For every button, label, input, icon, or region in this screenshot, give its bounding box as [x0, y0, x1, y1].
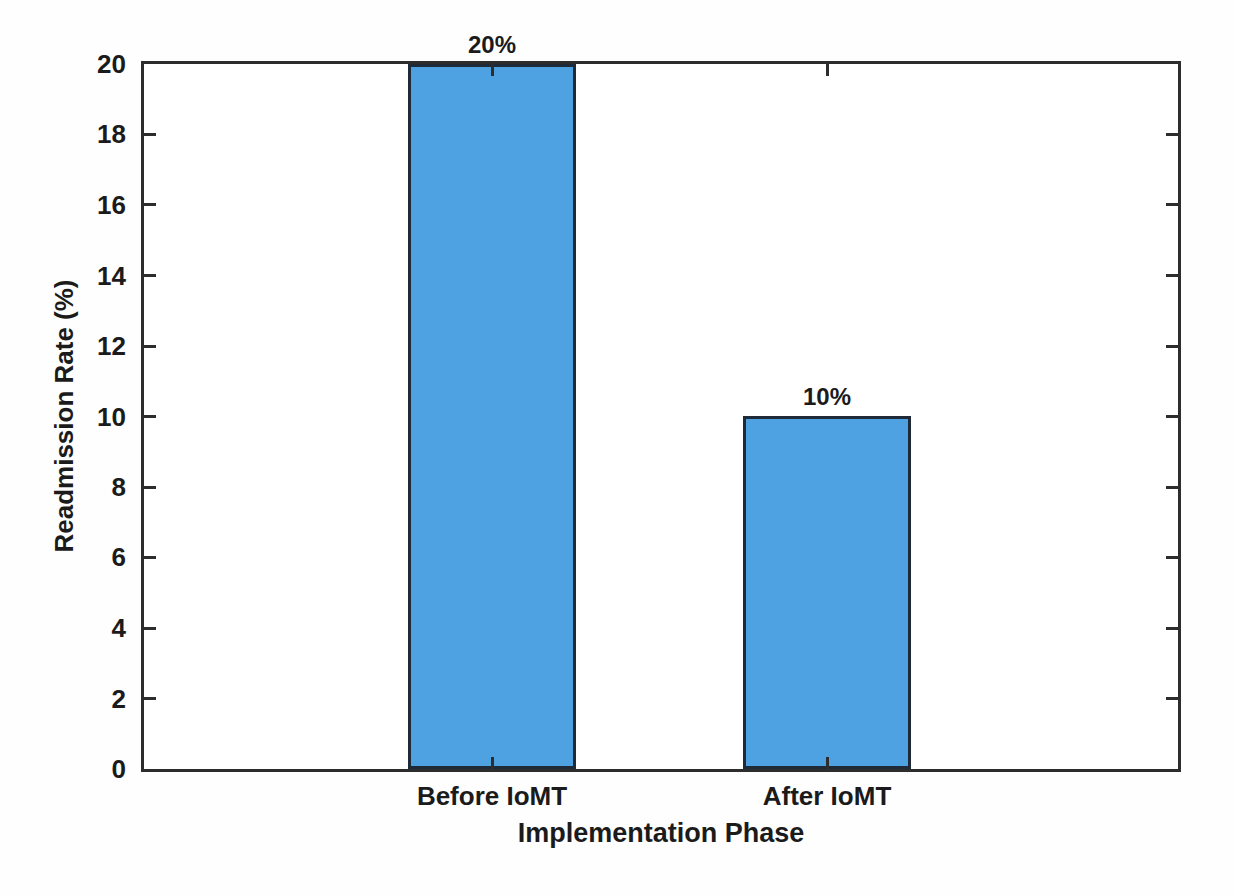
y-tick-label: 12 — [0, 332, 126, 360]
y-tick-label: 2 — [0, 685, 126, 713]
x-tick-bottom — [491, 757, 494, 769]
x-tick-top — [826, 64, 829, 76]
y-tick-right — [1166, 486, 1178, 489]
y-tick-left — [144, 203, 156, 206]
y-tick-label: 0 — [0, 755, 126, 783]
y-tick-left — [144, 486, 156, 489]
y-tick-label: 16 — [0, 191, 126, 219]
plot-area: 20%10% — [141, 61, 1181, 772]
x-tick-bottom — [826, 757, 829, 769]
y-tick-label: 20 — [0, 50, 126, 78]
y-tick-right — [1166, 345, 1178, 348]
figure: Readmission Rate (%) 02468101214161820 2… — [0, 0, 1234, 895]
x-category-label: After IoMT — [763, 781, 892, 811]
bar-value-label: 10% — [803, 384, 851, 410]
bar-value-label: 20% — [468, 32, 516, 58]
y-tick-left — [144, 345, 156, 348]
y-tick-label: 6 — [0, 543, 126, 571]
y-tick-right — [1166, 415, 1178, 418]
y-axis-tick-labels: 02468101214161820 — [0, 61, 126, 772]
y-tick-right — [1166, 133, 1178, 136]
y-tick-label: 8 — [0, 473, 126, 501]
x-tick-top — [491, 64, 494, 76]
y-tick-left — [144, 133, 156, 136]
y-tick-left — [144, 274, 156, 277]
y-tick-left — [144, 556, 156, 559]
y-tick-right — [1166, 274, 1178, 277]
x-category-label: Before IoMT — [417, 781, 567, 811]
bar-after-iomt — [743, 416, 911, 769]
y-tick-right — [1166, 627, 1178, 630]
y-tick-left — [144, 415, 156, 418]
y-tick-label: 14 — [0, 262, 126, 290]
y-tick-label: 4 — [0, 614, 126, 642]
y-tick-right — [1166, 203, 1178, 206]
y-tick-left — [144, 697, 156, 700]
y-tick-label: 18 — [0, 120, 126, 148]
y-tick-label: 10 — [0, 403, 126, 431]
y-tick-right — [1166, 556, 1178, 559]
x-axis-title: Implementation Phase — [518, 818, 805, 849]
bar-before-iomt — [408, 64, 576, 769]
y-tick-left — [144, 627, 156, 630]
y-tick-right — [1166, 697, 1178, 700]
